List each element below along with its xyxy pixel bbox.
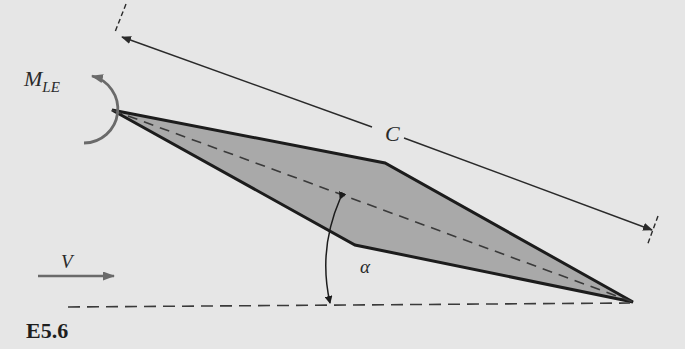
velocity-label: V [61,252,73,271]
chord-label: C [381,123,404,145]
freestream-reference-line [68,303,630,307]
diagram-graphic [0,0,685,349]
moment-label: MLE [24,68,60,95]
chord-dimension-tick-te [647,216,658,246]
angle-of-attack-label: α [360,257,370,276]
chord-dimension-arrow-left [122,37,372,127]
chord-dimension-tick-le [115,4,126,32]
diagram-canvas: MLE C V α E5.6 [0,0,685,349]
figure-id-label: E5.6 [26,320,68,342]
